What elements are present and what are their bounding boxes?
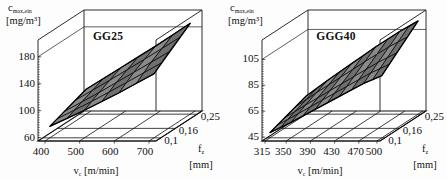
y-axis-title: fz [422, 143, 429, 155]
x-tick-label: 390 [299, 145, 316, 157]
z-axis-unit: [mg/m³] [228, 15, 263, 26]
y-tick-label: 0,1 [388, 134, 402, 146]
y-tick-label: 0,16 [403, 124, 423, 136]
y-axis-title: fz [198, 143, 205, 155]
chart-panel-gg25: 601001401804005006007000,10,160,25cmax,e… [0, 0, 223, 180]
x-tick-label: 315 [254, 145, 271, 157]
x-tick-label: 350 [275, 145, 292, 157]
figure-root: 601001401804005006007000,10,160,25cmax,e… [0, 0, 447, 180]
z-axis-unit: [mg/m³] [6, 15, 41, 26]
x-tick-label: 500 [67, 145, 84, 157]
plot-title: GGG40 [316, 30, 355, 42]
x-axis-title: vc [m/min] [74, 165, 119, 177]
plot-title: GG25 [93, 30, 123, 42]
z-tick-label: 140 [19, 77, 36, 89]
z-axis-title: cmax,ein [8, 2, 32, 14]
x-tick-label: 400 [33, 145, 50, 157]
y-tick-label: 0,16 [179, 124, 199, 136]
surface-plot-ggg40: 4565851053153503904304705000,10,160,25cm… [224, 0, 447, 180]
z-tick-label: 105 [243, 52, 260, 64]
x-tick-label: 600 [102, 145, 119, 157]
x-tick-label: 430 [323, 145, 340, 157]
z-axis-title: cmax,ein [230, 2, 254, 14]
y-tick-label: 0,1 [164, 134, 178, 146]
z-tick-label: 60 [24, 131, 36, 143]
chart-panel-ggg40: 4565851053153503904304705000,10,160,25cm… [224, 0, 447, 180]
z-tick-label: 65 [248, 104, 260, 116]
y-axis-unit: [mm] [413, 159, 436, 170]
z-tick-label: 100 [19, 104, 36, 116]
z-tick-label: 45 [248, 130, 260, 142]
x-axis: 400500600700 [33, 141, 156, 157]
x-axis-title: vc [m/min] [298, 165, 343, 177]
y-axis-unit: [mm] [189, 159, 212, 170]
x-tick-label: 470 [348, 145, 365, 157]
y-tick-label: 0,25 [425, 110, 445, 122]
y-tick-label: 0,25 [201, 110, 221, 122]
z-tick-label: 180 [19, 50, 36, 62]
z-tick-label: 85 [248, 78, 260, 90]
x-tick-label: 500 [366, 145, 383, 157]
x-tick-label: 700 [137, 145, 154, 157]
x-axis: 315350390430470500 [254, 141, 383, 157]
surface-plot-gg25: 601001401804005006007000,10,160,25cmax,e… [0, 0, 223, 180]
